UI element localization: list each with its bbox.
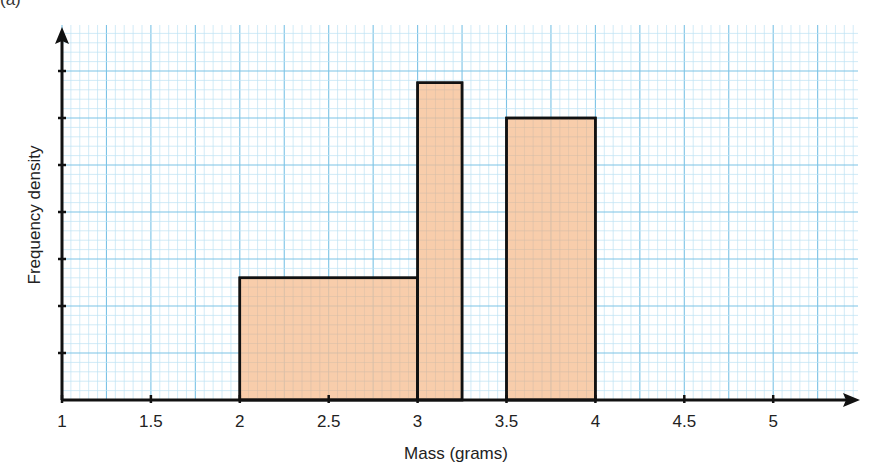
y-axis-title: Frequency density — [25, 145, 44, 284]
histogram-chart: 11.522.533.544.55 Mass (grams) Frequency… — [0, 0, 884, 476]
x-axis-title: Mass (grams) — [404, 444, 508, 463]
histogram-bar — [418, 83, 462, 400]
x-tick-label: 4 — [591, 412, 600, 431]
x-tick-label: 3.5 — [495, 412, 519, 431]
x-tick-labels: 11.522.533.544.55 — [57, 412, 778, 431]
x-tick-label: 4.5 — [672, 412, 696, 431]
x-tick-label: 1.5 — [139, 412, 163, 431]
x-tick-label: 2 — [235, 412, 244, 431]
x-tick-label: 2.5 — [317, 412, 341, 431]
x-tick-label: 5 — [768, 412, 777, 431]
x-tick-label: 3 — [413, 412, 422, 431]
x-tick-label: 1 — [57, 412, 66, 431]
